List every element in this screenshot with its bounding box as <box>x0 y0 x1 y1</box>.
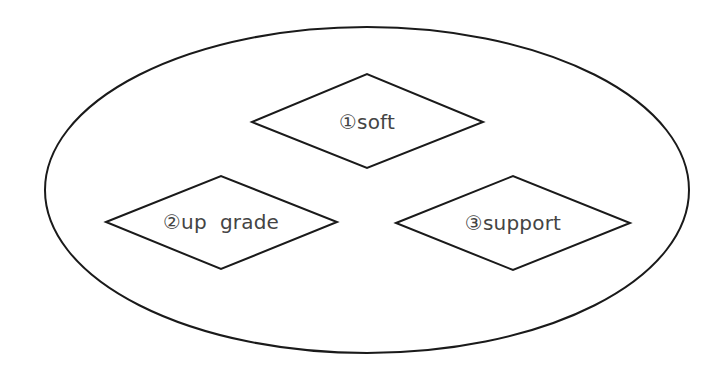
label-support: ③support <box>465 211 561 235</box>
label-soft: ①soft <box>339 110 395 134</box>
label-upgrade: ②up grade <box>163 210 279 234</box>
diagram-canvas: ①soft ②up grade ③support <box>0 0 728 372</box>
node-soft: ①soft <box>252 74 483 168</box>
node-support: ③support <box>396 176 630 270</box>
container-ellipse <box>45 27 689 353</box>
node-upgrade: ②up grade <box>106 176 337 269</box>
